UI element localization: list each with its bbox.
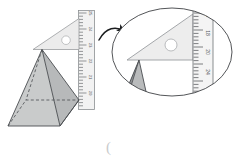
magnified-ruler: 15 18 20 24 <box>193 10 213 96</box>
ruler-number-4: 21 <box>88 75 93 80</box>
main-illustration: 25 24 23 22 21 20 <box>8 11 95 127</box>
figure-canvas: 25 24 23 22 21 20 <box>0 0 234 161</box>
magnified-ruler-number-1: 18 <box>205 30 211 36</box>
set-square <box>33 19 79 50</box>
ruler-number-2: 23 <box>88 43 93 48</box>
magnified-ruler-number-2: 20 <box>205 49 211 55</box>
vertical-ruler: 25 24 23 22 21 20 <box>79 11 95 110</box>
ruler-number-3: 22 <box>88 59 93 64</box>
ruler-number-1: 24 <box>88 27 93 32</box>
figure-root: 25 24 23 22 21 20 <box>0 0 234 161</box>
square-pyramid <box>8 50 79 127</box>
magnified-ruler-number-3: 24 <box>205 69 211 75</box>
set-square-hole-icon <box>62 36 71 45</box>
ruler-number-0: 25 <box>88 11 93 16</box>
bottom-annotation-mark: ( <box>106 139 111 156</box>
ruler-number-5: 20 <box>88 91 93 96</box>
magnifier-callout: 15 18 20 24 <box>110 6 234 100</box>
magnified-set-square-hole-icon <box>165 39 177 51</box>
set-square-body <box>33 19 79 50</box>
